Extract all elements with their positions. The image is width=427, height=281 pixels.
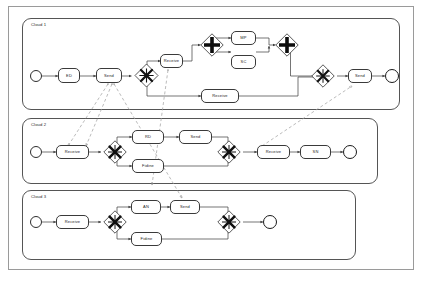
gateway-p1-complex-2[interactable] [310,63,336,89]
task-p3-receive[interactable]: Receive [56,215,89,229]
task-p2-receive-1[interactable]: Receive [56,145,89,159]
task-p2-rd[interactable]: RD [132,130,164,144]
gateway-p1-complex-1[interactable] [133,62,160,89]
task-label: Receive [164,59,180,63]
task-label: Send [191,135,201,139]
task-p1-mp[interactable]: MP [231,31,256,45]
pool3-end-event[interactable] [263,215,277,229]
task-p2-receive-2[interactable]: Receive [257,145,290,159]
gateway-p1-parallel-2[interactable] [274,32,300,58]
task-label: SN [313,150,319,154]
task-label: RD [145,135,151,139]
task-label: MP [240,36,246,40]
gateway-p3-complex-2[interactable] [216,209,242,235]
task-label: Receive [212,94,228,98]
task-p3-fidine[interactable]: Fidine [131,232,162,246]
task-label: ED [66,74,72,78]
task-p1-sc[interactable]: SC [231,55,256,69]
gateway-p2-complex-2[interactable] [216,139,242,165]
pool2-end-event[interactable] [343,145,357,159]
gateway-p2-complex-1[interactable] [102,139,128,165]
pool1-start-event[interactable] [30,70,42,82]
task-p1-receive-1[interactable]: Receive [160,54,183,68]
task-p3-an[interactable]: AN [131,200,161,214]
task-p2-fidine[interactable]: Fidine [132,159,164,173]
task-label: AN [143,205,149,209]
task-label: Send [180,205,190,209]
task-p1-send-2[interactable]: Send [348,69,372,83]
pool1-end-event[interactable] [385,69,399,83]
task-label: Fidine [141,237,153,241]
task-p2-sn[interactable]: SN [300,145,331,159]
gateway-p1-parallel-1[interactable] [199,32,225,58]
task-label: Receive [65,150,81,154]
gateway-p3-complex-1[interactable] [102,209,128,235]
task-p1-ed[interactable]: ED [58,68,80,83]
pool3-start-event[interactable] [30,216,42,228]
task-label: Send [104,74,114,78]
task-label: Receive [65,220,81,224]
task-p3-send[interactable]: Send [170,200,200,214]
diagram-canvas: Cloud 1 Cloud 2 Cloud 3 [0,0,427,281]
task-label: Send [355,74,365,78]
task-label: SC [241,60,247,64]
task-p2-send[interactable]: Send [179,130,212,144]
task-p1-receive-2[interactable]: Receive [201,89,239,103]
task-label: Receive [266,150,282,154]
task-label: Fidine [142,164,154,168]
pool2-start-event[interactable] [30,146,42,158]
task-p1-send-1[interactable]: Send [96,68,122,83]
